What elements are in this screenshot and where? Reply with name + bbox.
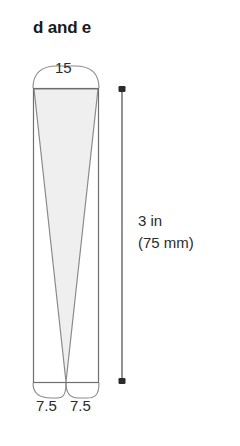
height-arrow-top bbox=[119, 86, 126, 92]
bottom-right-brace bbox=[66, 383, 99, 398]
bottom-left-width-label: 7.5 bbox=[36, 397, 57, 414]
shaded-triangle bbox=[34, 89, 98, 382]
figure-root: d and e 15 7.5 7.5 3 in (75 mm) bbox=[0, 0, 240, 446]
height-label-mm: (75 mm) bbox=[138, 232, 194, 254]
bottom-left-brace bbox=[33, 383, 66, 398]
top-width-label: 15 bbox=[55, 59, 72, 76]
height-label-inches: 3 in bbox=[138, 210, 194, 232]
height-arrow-bottom bbox=[119, 378, 126, 384]
height-label-group: 3 in (75 mm) bbox=[138, 210, 194, 254]
geometry-diagram-svg bbox=[0, 0, 240, 446]
bottom-right-width-label: 7.5 bbox=[70, 397, 91, 414]
